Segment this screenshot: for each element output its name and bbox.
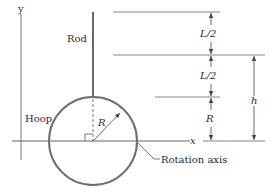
rod-hoop-diagram: y x Rod Hoop R Rotation axis L/2 (0, 0, 277, 193)
radius-dimension-label: R (205, 113, 214, 124)
rotation-axis-callout: Rotation axis (138, 143, 227, 165)
dimension-h: h (251, 56, 257, 140)
x-axis: x (12, 135, 196, 146)
y-axis-label: y (17, 3, 24, 14)
radius-label: R (97, 117, 106, 128)
x-axis-label: x (190, 135, 196, 146)
lower-half-label: L/2 (199, 70, 216, 81)
y-axis: y (17, 3, 24, 160)
rotation-axis-label: Rotation axis (161, 154, 227, 165)
dimension-radius: R (205, 98, 214, 140)
dimension-upper-half-length: L/2 (199, 13, 216, 54)
upper-half-label: L/2 (199, 28, 216, 39)
dimension-lower-half-length: L/2 (199, 56, 216, 96)
hoop-label: Hoop (25, 113, 52, 124)
rod-label: Rod (67, 33, 88, 44)
rod: Rod (67, 12, 93, 97)
h-label: h (251, 95, 257, 106)
reference-lines (113, 12, 265, 141)
